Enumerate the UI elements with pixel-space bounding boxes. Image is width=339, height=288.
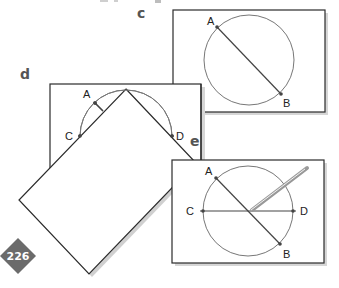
panel-d-point-d-label: D [176,130,184,142]
panel-e-point-a-label: A [205,165,213,177]
panel-c-point-a-mark [215,25,219,29]
panel-e-point-a-mark [214,176,218,180]
panel-e-point-d-label: D [300,205,308,217]
panel-e: A B C D [172,160,327,266]
panel-d-label: d [20,66,30,82]
panel-d-point-c-label: C [65,130,73,142]
panel-e-point-d-mark [291,209,295,213]
panel-e-point-c-mark [201,209,205,213]
panel-c-point-b-mark [279,92,283,96]
page-number-badge: 226 [0,238,36,274]
panel-c-point-b-label: B [283,97,290,109]
panel-c-point-a-label: A [207,15,215,27]
panel-e-point-b-label: B [283,248,290,260]
cropped-caption-fragment [100,0,161,3]
panel-d-point-a-label: A [83,88,91,100]
page-number: 226 [7,250,30,263]
panel-c-label: c [137,5,145,21]
panel-e-label: e [190,133,200,149]
panel-e-point-c-label: C [186,205,194,217]
geometry-diagram: A B c A C D d [0,0,339,288]
panel-e-point-b-mark [278,242,282,246]
